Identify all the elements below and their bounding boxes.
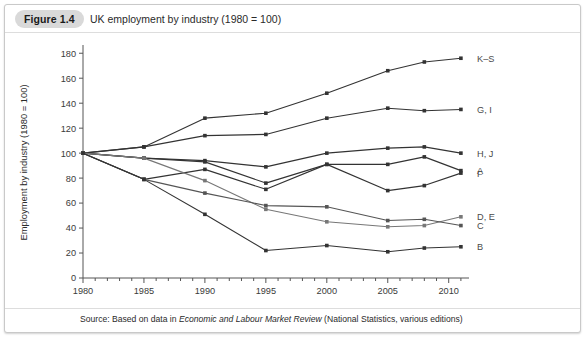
axis-lines — [83, 45, 469, 278]
series-data-point — [423, 109, 427, 113]
x-tick-label: 2005 — [378, 286, 398, 296]
series-data-point — [264, 165, 268, 169]
series-data-point — [423, 145, 427, 149]
series-data-point — [325, 244, 329, 248]
series-data-point — [423, 218, 427, 222]
series-data-point — [203, 116, 207, 120]
source-prefix: Source: Based on data in — [80, 314, 179, 324]
series-data-point — [386, 69, 390, 73]
series-label: G, I — [477, 105, 492, 115]
data-series-group — [81, 56, 463, 253]
series-line — [83, 153, 461, 190]
series-labels-group: K–SG, IH, JAFD, ECB — [477, 54, 495, 253]
y-axis-title-group: Employment by industry (1980 = 100) — [18, 84, 29, 240]
figure-container: Figure 1.4 UK employment by industry (19… — [4, 4, 581, 333]
series-data-point — [203, 213, 207, 217]
series-line — [83, 153, 461, 225]
series-data-point — [386, 225, 390, 229]
series-data-point — [203, 179, 207, 183]
y-tick-label: 180 — [61, 49, 76, 59]
y-tick-label: 60 — [66, 198, 76, 208]
series-data-point — [386, 163, 390, 167]
y-tick-label: 80 — [66, 174, 76, 184]
series-data-point — [459, 245, 463, 249]
x-tick-label: 1985 — [134, 286, 154, 296]
series-data-point — [459, 108, 463, 112]
series-line — [83, 108, 461, 153]
series-data-point — [386, 106, 390, 110]
series-data-point — [325, 116, 329, 120]
series-data-point — [264, 181, 268, 185]
series-data-point — [325, 163, 329, 167]
figure-header: Figure 1.4 UK employment by industry (19… — [5, 5, 580, 33]
series-data-point — [203, 168, 207, 172]
series-data-point — [423, 184, 427, 188]
source-text: Source: Based on data in Economic and La… — [80, 314, 463, 324]
series-data-point — [325, 205, 329, 209]
series-data-point — [81, 151, 85, 155]
series-label: B — [477, 242, 483, 252]
series-data-point — [142, 145, 146, 149]
series-data-point — [386, 219, 390, 223]
series-data-point — [325, 91, 329, 95]
series-data-point — [203, 134, 207, 138]
y-tick-label: 40 — [66, 223, 76, 233]
y-axis-title: Employment by industry (1980 = 100) — [18, 84, 29, 240]
series-data-point — [423, 155, 427, 159]
series-data-point — [423, 246, 427, 250]
source-suffix: (National Statistics, various editions) — [322, 314, 463, 324]
figure-number-badge: Figure 1.4 — [15, 10, 84, 28]
series-data-point — [423, 60, 427, 64]
series-data-point — [264, 208, 268, 212]
series-label: H, J — [477, 149, 493, 159]
series-line — [83, 58, 461, 153]
series-label: C — [477, 221, 484, 231]
x-tick-label: 1995 — [256, 286, 276, 296]
series-data-point — [459, 151, 463, 155]
y-tick-label: 100 — [61, 149, 76, 159]
series-data-point — [386, 146, 390, 150]
series-data-point — [386, 189, 390, 193]
series-data-point — [203, 191, 207, 195]
y-axis-ticks: 020406080100120140160180 — [61, 49, 83, 284]
line-chart: Employment by industry (1980 = 100) 0204… — [5, 33, 582, 310]
y-tick-label: 120 — [61, 124, 76, 134]
series-line — [83, 153, 461, 227]
x-tick-label: 2000 — [317, 286, 337, 296]
source-publication: Economic and Labour Market Review — [179, 314, 322, 324]
y-tick-label: 20 — [66, 248, 76, 258]
series-data-point — [386, 250, 390, 254]
series-data-point — [459, 171, 463, 175]
y-tick-label: 160 — [61, 74, 76, 84]
x-axis-ticks: 1980198519901995200020052010 — [73, 278, 461, 296]
series-data-point — [325, 151, 329, 155]
figure-caption: UK employment by industry (1980 = 100) — [90, 10, 281, 28]
series-data-point — [203, 160, 207, 164]
series-label: F — [477, 169, 483, 179]
series-data-point — [459, 56, 463, 60]
series-line — [83, 153, 461, 252]
series-data-point — [264, 111, 268, 115]
source-note: Source: Based on data in Economic and La… — [5, 308, 580, 332]
series-line — [83, 147, 461, 167]
y-tick-label: 140 — [61, 99, 76, 109]
series-data-point — [423, 224, 427, 228]
x-tick-label: 1980 — [73, 286, 93, 296]
series-data-point — [142, 178, 146, 182]
x-tick-label: 2010 — [438, 286, 458, 296]
series-data-point — [264, 249, 268, 253]
series-label: K–S — [477, 54, 494, 64]
series-data-point — [459, 224, 463, 228]
series-data-point — [264, 204, 268, 208]
series-data-point — [325, 220, 329, 224]
series-data-point — [459, 215, 463, 219]
x-tick-label: 1990 — [195, 286, 215, 296]
y-tick-label: 0 — [71, 273, 76, 283]
series-data-point — [264, 188, 268, 192]
series-data-point — [142, 156, 146, 160]
chart-plot-area: Employment by industry (1980 = 100) 0204… — [5, 33, 582, 310]
series-data-point — [264, 133, 268, 137]
